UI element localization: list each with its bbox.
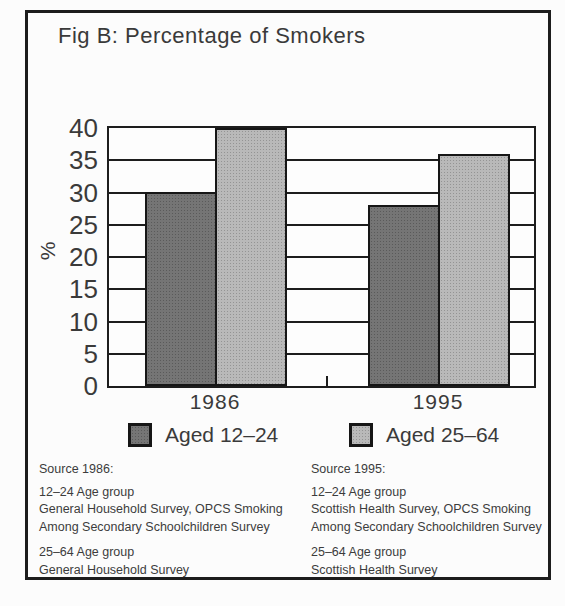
figure-box: Fig B: Percentage of Smokers % 051015202… — [25, 10, 551, 580]
y-tick-label-15: 15 — [40, 275, 98, 303]
y-tick-label-25: 25 — [40, 211, 98, 239]
legend-swatch-aged-25-64 — [349, 423, 373, 447]
x-axis-label-1986: 1986 — [155, 390, 275, 414]
y-tick-label-5: 5 — [40, 340, 98, 368]
page: Fig B: Percentage of Smokers % 051015202… — [0, 0, 565, 606]
legend-swatch-aged-12-24 — [128, 423, 152, 447]
bar-1986-aged-25-64 — [215, 128, 287, 386]
x-axis-center-tick — [326, 376, 328, 386]
footnote-1986-heading: Source 1986: — [39, 461, 301, 479]
bar-1986-aged-12-24 — [145, 192, 217, 386]
y-tick-label-0: 0 — [40, 372, 98, 400]
y-tick-label-10: 10 — [40, 308, 98, 336]
bar-1995-aged-25-64 — [438, 154, 510, 386]
legend-label-aged-12-24: Aged 12–24 — [165, 421, 278, 449]
x-axis-label-1995: 1995 — [378, 390, 498, 414]
y-tick-label-40: 40 — [40, 114, 98, 142]
footnote-1995-heading: Source 1995: — [311, 461, 561, 479]
footnote-1995-group1: 12–24 Age group Scottish Health Survey, … — [311, 484, 561, 537]
footnote-1995-group2: 25–64 Age group Scottish Health Survey — [311, 544, 561, 579]
y-tick-label-30: 30 — [40, 179, 98, 207]
y-tick-label-20: 20 — [40, 243, 98, 271]
y-tick-label-35: 35 — [40, 146, 98, 174]
footnote-source-1995: Source 1995: 12–24 Age group Scottish He… — [311, 461, 561, 587]
chart-plot-area — [107, 126, 536, 388]
legend-label-aged-25-64: Aged 25–64 — [386, 421, 499, 449]
bar-1995-aged-12-24 — [368, 205, 440, 386]
footnote-source-1986: Source 1986: 12–24 Age group General Hou… — [39, 461, 301, 587]
footnote-1986-group2: 25–64 Age group General Household Survey — [39, 544, 301, 579]
figure-title: Fig B: Percentage of Smokers — [58, 21, 365, 51]
footnote-1986-group1: 12–24 Age group General Household Survey… — [39, 484, 301, 537]
